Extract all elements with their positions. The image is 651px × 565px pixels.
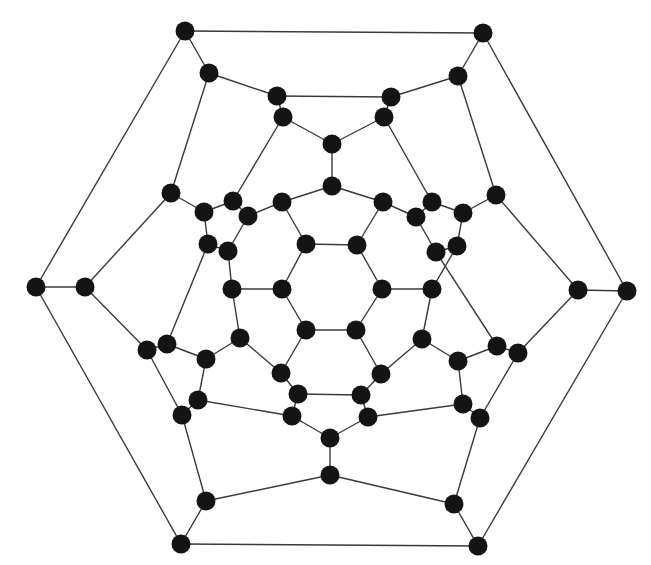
graph-node	[618, 282, 637, 301]
graph-edge	[391, 76, 458, 97]
graph-node	[272, 364, 291, 383]
graph-edge	[181, 544, 478, 546]
graph-node	[189, 391, 208, 410]
graph-node	[448, 237, 467, 256]
graph-edge	[483, 33, 627, 291]
graph-node	[449, 67, 468, 86]
graph-edge	[233, 117, 283, 201]
graph-edge	[478, 291, 627, 546]
graph-node	[413, 330, 432, 349]
graph-node	[323, 177, 342, 196]
graph-edge	[330, 475, 454, 504]
graph-node	[224, 192, 243, 211]
graph-node	[374, 193, 393, 212]
graph-node	[347, 321, 366, 340]
graph-edge	[277, 96, 391, 97]
graph-node	[454, 204, 473, 223]
graph-node	[471, 409, 490, 428]
graph-node	[423, 193, 442, 212]
graph-node	[297, 235, 316, 254]
graph-node	[373, 280, 392, 299]
graph-node	[469, 537, 488, 556]
graph-node	[27, 278, 46, 297]
graph-node	[76, 278, 95, 297]
graph-edge	[209, 73, 277, 96]
graph-edge	[171, 73, 209, 193]
graph-edge	[518, 290, 578, 353]
graph-node	[297, 321, 316, 340]
graph-node	[407, 208, 426, 227]
graph-edge	[36, 31, 185, 287]
graph-node	[274, 108, 293, 127]
graph-edge	[368, 404, 463, 417]
graph-node	[509, 344, 528, 363]
graph-node	[138, 341, 157, 360]
graph-node	[195, 203, 214, 222]
graph-node	[200, 64, 219, 83]
graph-edge	[496, 195, 578, 290]
graph-edge	[384, 117, 432, 202]
graph-node	[197, 492, 216, 511]
graph-node	[231, 329, 250, 348]
graph-edge	[36, 287, 181, 544]
graph-edge	[206, 475, 330, 501]
graph-edge	[85, 287, 147, 350]
graph-node	[172, 535, 191, 554]
graph-node	[427, 243, 446, 262]
graph-node	[162, 184, 181, 203]
graph-edge	[85, 193, 171, 287]
graph-edge	[454, 418, 480, 504]
graph-node	[359, 408, 378, 427]
graph-node	[323, 135, 342, 154]
graph-edge	[458, 76, 496, 195]
graph-node	[382, 88, 401, 107]
graph-node	[273, 280, 292, 299]
graph-node	[239, 207, 258, 226]
graph-edge	[147, 350, 182, 415]
graph-node	[454, 395, 473, 414]
graph-edge	[182, 415, 206, 501]
graph-node	[199, 235, 218, 254]
graph-edge	[198, 400, 292, 416]
graph-node	[487, 186, 506, 205]
graph-edge	[167, 244, 208, 344]
graph-node	[219, 242, 238, 261]
graph-node	[283, 407, 302, 426]
graph-edge	[480, 353, 518, 418]
graph-node	[423, 280, 442, 299]
graph-node	[321, 466, 340, 485]
graph-node	[449, 352, 468, 371]
graph-node	[474, 24, 493, 43]
graph-node	[197, 350, 216, 369]
graph-node	[488, 337, 507, 356]
graph-node	[273, 193, 292, 212]
graph-node	[176, 22, 195, 41]
graph-nodes	[27, 22, 637, 556]
graph-node	[569, 281, 588, 300]
graph-node	[352, 386, 371, 405]
graph-node	[158, 335, 177, 354]
fullerene-graph-diagram	[0, 0, 651, 565]
graph-node	[321, 429, 340, 448]
graph-node	[223, 280, 242, 299]
graph-node	[372, 365, 391, 384]
graph-edge	[185, 31, 483, 33]
graph-node	[445, 495, 464, 514]
graph-node	[268, 87, 287, 106]
graph-node	[173, 406, 192, 425]
graph-node	[375, 108, 394, 127]
graph-node	[289, 385, 308, 404]
graph-node	[348, 236, 367, 255]
